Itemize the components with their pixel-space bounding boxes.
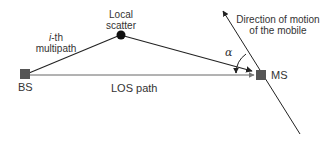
los-path-label: LOS path <box>111 83 157 94</box>
multipath-suffix: -th <box>51 32 63 43</box>
scatter-label: Local scatter <box>106 9 136 31</box>
multipath-label: i-th multipath <box>36 32 77 54</box>
angle-arc <box>236 54 246 73</box>
scatter-label-line2: scatter <box>106 20 136 31</box>
motion-direction-label: Direction of motion of the mobile <box>236 14 319 36</box>
ms-node-icon <box>256 70 266 80</box>
ms-label: MS <box>271 70 288 81</box>
multipath-line-scatter-to-ms <box>124 36 252 71</box>
motion-label-line2: of the mobile <box>236 25 319 36</box>
scatter-node-icon <box>117 31 126 40</box>
bs-node-icon <box>20 69 30 79</box>
angle-alpha-label: α <box>225 47 232 58</box>
multipath-label-line2: multipath <box>36 43 77 54</box>
motion-label-line1: Direction of motion <box>236 14 319 25</box>
bs-label: BS <box>18 82 33 93</box>
scatter-label-line1: Local <box>106 9 136 20</box>
multipath-label-line1: i-th <box>36 32 77 43</box>
